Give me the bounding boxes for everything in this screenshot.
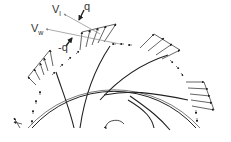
rotation-arrow-icon [106, 120, 124, 126]
impeller-outline [28, 90, 200, 128]
velocity-profile-arrows [14, 24, 214, 128]
label-q: q [84, 1, 90, 12]
label-v-l: Vl [52, 4, 61, 15]
label-neg-q: -q [58, 42, 68, 53]
impeller-blades [56, 46, 188, 130]
inner-band-arrows [32, 44, 197, 124]
label-v-w: Vw [31, 23, 43, 34]
v-l-vector [64, 14, 100, 34]
velocity-envelopes [28, 24, 214, 110]
